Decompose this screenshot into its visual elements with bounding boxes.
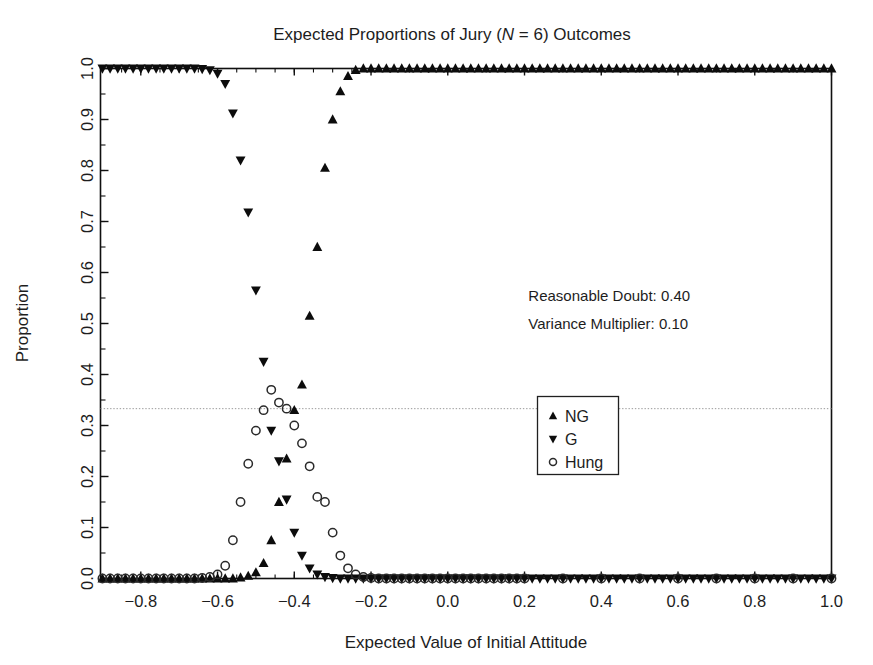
x-tick-label: 0.4 bbox=[590, 592, 613, 610]
chart-annotation: Variance Multiplier: 0.10 bbox=[528, 315, 688, 332]
y-tick-label: 0.6 bbox=[78, 261, 96, 284]
y-tick-label: 0.9 bbox=[78, 108, 96, 131]
x-axis-label: Expected Value of Initial Attitude bbox=[345, 633, 588, 652]
y-tick-label: 0.8 bbox=[78, 159, 96, 182]
chart-annotation: Reasonable Doubt: 0.40 bbox=[528, 287, 690, 304]
chart-title-prefix: Expected Proportions of Jury ( bbox=[273, 25, 502, 44]
x-tick-label: −0.6 bbox=[201, 592, 234, 610]
legend-label: NG bbox=[565, 408, 589, 425]
chart-title-suffix: = 6) Outcomes bbox=[514, 25, 631, 44]
x-tick-label: 0.8 bbox=[743, 592, 766, 610]
x-tick-label: −0.2 bbox=[355, 592, 388, 610]
y-axis-label: Proportion bbox=[13, 284, 32, 362]
figure-background bbox=[0, 0, 873, 665]
y-tick-label: 0.0 bbox=[78, 567, 96, 590]
y-tick-label: 1.0 bbox=[78, 57, 96, 80]
chart-title: Expected Proportions of Jury (N = 6) Out… bbox=[273, 25, 631, 44]
x-tick-label: −0.8 bbox=[125, 592, 158, 610]
legend-label: Hung bbox=[565, 454, 603, 471]
x-tick-label: 0.0 bbox=[436, 592, 459, 610]
legend-label: G bbox=[565, 431, 577, 448]
x-tick-label: 0.6 bbox=[667, 592, 690, 610]
x-tick-label: −0.4 bbox=[278, 592, 311, 610]
y-tick-label: 0.7 bbox=[78, 210, 96, 233]
y-tick-label: 0.2 bbox=[78, 465, 96, 488]
chart-figure: Expected Proportions of Jury (N = 6) Out… bbox=[0, 0, 873, 665]
y-tick-label: 0.3 bbox=[78, 414, 96, 437]
y-tick-label: 0.5 bbox=[78, 312, 96, 335]
y-tick-label: 0.4 bbox=[78, 363, 96, 386]
y-tick-label: 0.1 bbox=[78, 516, 96, 539]
chart-title-italic-n: N bbox=[502, 25, 515, 44]
x-tick-label: 0.2 bbox=[513, 592, 536, 610]
x-tick-label: 1.0 bbox=[820, 592, 843, 610]
chart-legend[interactable]: NGGHung bbox=[538, 397, 619, 475]
